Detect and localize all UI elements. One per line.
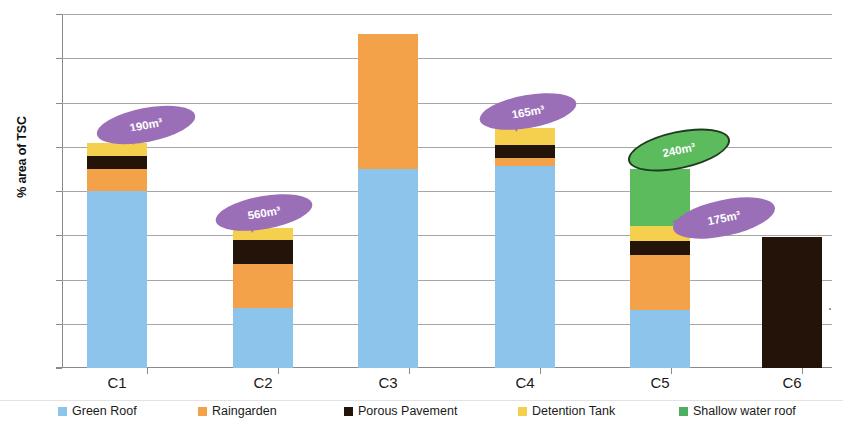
bar-c5-segment-raingarden <box>630 255 690 309</box>
x-tick-label-c4: C4 <box>480 374 570 391</box>
y-tickmark-0 <box>56 368 62 369</box>
callout-c2-560-tail <box>245 219 260 234</box>
bar-c4-segment-raingarden <box>495 158 555 166</box>
bar-c2-segment-green-roof <box>233 308 293 368</box>
x-tick-label-c3: C3 <box>343 374 433 391</box>
bar-c1-segment-porous-pavement <box>87 156 147 169</box>
callout-c5-175-label: 175m³ <box>706 209 741 228</box>
callout-c5-240-label: 240m³ <box>661 141 696 160</box>
legend-item-shallow-water-roof[interactable]: Shallow water roof <box>679 404 796 418</box>
y-gridline-60 <box>62 103 832 104</box>
legend-item-detention-tank[interactable]: Detention Tank <box>518 404 615 418</box>
x-tick-label-c5: C5 <box>615 374 705 391</box>
y-tickmark-20 <box>56 280 62 281</box>
y-axis-title: % area of TSC <box>15 97 29 217</box>
bar-c1-segment-detention-tank <box>87 143 147 155</box>
bar-c1[interactable] <box>87 143 147 368</box>
x-tick-label-c1: C1 <box>72 374 162 391</box>
bar-c1-segment-green-roof <box>87 191 147 368</box>
legend-swatch-porous-pavement <box>344 407 353 416</box>
y-tickmark-70 <box>56 58 62 59</box>
bar-c5[interactable] <box>630 169 690 368</box>
legend-label-porous-pavement: Porous Pavement <box>358 404 457 418</box>
y-tickmark-10 <box>56 324 62 325</box>
bar-c4-segment-detention-tank <box>495 128 555 144</box>
y-tickmark-50 <box>56 147 62 148</box>
bar-c5-segment-green-roof <box>630 310 690 368</box>
plot-area: 80 70 60 50 40 30 20 10 0 <box>62 14 832 368</box>
y-gridline-70 <box>62 58 832 59</box>
callout-c5-175-tail <box>672 215 687 230</box>
x-tick-label-c2: C2 <box>218 374 308 391</box>
y-gridline-20 <box>62 280 832 281</box>
bar-c6-segment-porous-pavement <box>762 237 822 368</box>
legend-item-raingarden[interactable]: Raingarden <box>198 404 277 418</box>
x-tick-label-c6: C6 <box>747 374 837 391</box>
legend-label-detention-tank: Detention Tank <box>532 404 615 418</box>
legend-divider <box>0 400 843 401</box>
bar-c2-segment-porous-pavement <box>233 240 293 264</box>
chart-legend: Green Roof Raingarden Porous Pavement De… <box>0 404 843 427</box>
bar-c6[interactable] <box>762 237 822 368</box>
callout-c5-240-tail <box>652 155 665 170</box>
bar-c3-segment-raingarden <box>358 34 418 169</box>
legend-item-porous-pavement[interactable]: Porous Pavement <box>344 404 457 418</box>
y-tickmark-60 <box>56 103 62 104</box>
bar-c5-segment-porous-pavement <box>630 241 690 255</box>
legend-label-green-roof: Green Roof <box>72 404 137 418</box>
bar-c2-segment-raingarden <box>233 264 293 308</box>
y-gridline-40 <box>62 191 832 192</box>
legend-swatch-raingarden <box>198 407 207 416</box>
bar-c3[interactable] <box>358 34 418 368</box>
y-gridline-80 <box>62 14 832 15</box>
bar-c1-segment-raingarden <box>87 169 147 191</box>
bar-c4-segment-porous-pavement <box>495 145 555 158</box>
callout-c1-190-tail <box>125 130 140 145</box>
legend-item-green-roof[interactable]: Green Roof <box>58 404 137 418</box>
callout-c4-165-tail <box>509 118 524 133</box>
legend-label-shallow-water-roof: Shallow water roof <box>693 404 796 418</box>
stacked-bar-chart: % area of TSC 80 70 60 50 40 30 20 10 0 <box>0 0 843 427</box>
stray-mark <box>829 308 831 310</box>
legend-swatch-shallow-water-roof <box>679 407 688 416</box>
legend-label-raingarden: Raingarden <box>212 404 277 418</box>
x-axis-line <box>56 367 832 368</box>
bar-c2[interactable] <box>233 228 293 368</box>
bar-c4-segment-green-roof <box>495 166 555 368</box>
bar-c4[interactable] <box>495 128 555 368</box>
legend-swatch-detention-tank <box>518 407 527 416</box>
legend-swatch-green-roof <box>58 407 67 416</box>
y-gridline-10 <box>62 324 832 325</box>
y-tickmark-30 <box>56 235 62 236</box>
bar-c3-segment-green-roof <box>358 169 418 368</box>
y-tickmark-80 <box>56 14 62 15</box>
y-tickmark-40 <box>56 191 62 192</box>
